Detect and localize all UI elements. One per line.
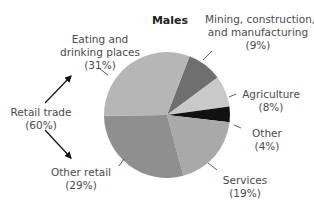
label-agriculture-line1: Agriculture xyxy=(238,88,304,101)
label-other-retail: Other retail (29%) xyxy=(46,166,116,192)
label-agriculture-value: (8%) xyxy=(238,101,304,114)
label-mining: Mining, construction, and manufacturing … xyxy=(205,13,311,52)
label-other: Other (4%) xyxy=(249,127,285,153)
label-mining-line2: and manufacturing xyxy=(205,26,311,39)
label-agriculture: Agriculture (8%) xyxy=(238,88,304,114)
label-other-line1: Other xyxy=(249,127,285,140)
label-services-value: (19%) xyxy=(222,187,268,200)
label-eating: Eating and drinking places (31%) xyxy=(52,33,148,72)
label-mining-line1: Mining, construction, xyxy=(205,13,311,26)
label-retail-trade: Retail trade (60%) xyxy=(6,106,76,132)
label-retail-value: (60%) xyxy=(6,119,76,132)
label-retail-line1: Retail trade xyxy=(6,106,76,119)
label-services-line1: Services xyxy=(222,174,268,187)
label-other-retail-value: (29%) xyxy=(46,179,116,192)
label-other-value: (4%) xyxy=(249,140,285,153)
label-eating-line1: Eating and xyxy=(52,33,148,46)
pie-chart: Males Eating and drinking places (31%) M… xyxy=(0,0,314,208)
chart-title: Males xyxy=(130,14,210,27)
label-other-retail-line1: Other retail xyxy=(46,166,116,179)
label-services: Services (19%) xyxy=(222,174,268,200)
label-eating-line2: drinking places xyxy=(52,46,148,59)
arrow-to-eating xyxy=(45,76,71,103)
label-mining-value: (9%) xyxy=(205,39,311,52)
arrow-to-other-retail xyxy=(45,130,71,158)
label-eating-value: (31%) xyxy=(52,59,148,72)
